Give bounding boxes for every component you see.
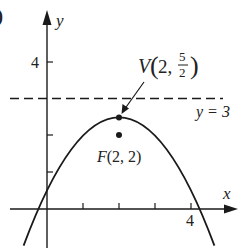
x-axis-label: x xyxy=(222,184,231,203)
svg-text:2,: 2, xyxy=(158,56,172,77)
focus-label: F(2, 2) xyxy=(96,148,141,166)
x-axis-arrow-icon xyxy=(224,205,238,214)
y-tick-label-4: 4 xyxy=(31,54,39,71)
panel-label: ) xyxy=(0,6,3,27)
y-axis-arrow-icon xyxy=(43,10,52,25)
x-tick-label-4: 4 xyxy=(186,212,194,229)
vertex-label: V ( 2, 5 2 ) xyxy=(138,49,199,80)
vertex-point xyxy=(116,115,122,121)
parabola-diagram: ) y 4 x 4 y = 3 V ( 2, 5 2 xyxy=(0,0,245,250)
svg-text:2: 2 xyxy=(179,65,186,80)
y-axis-label: y xyxy=(54,11,64,30)
svg-text:): ) xyxy=(190,51,199,80)
x-axis: x 4 xyxy=(10,184,238,229)
focus-point xyxy=(116,132,122,138)
directrix-label: y = 3 xyxy=(194,103,230,121)
svg-text:5: 5 xyxy=(179,49,186,64)
